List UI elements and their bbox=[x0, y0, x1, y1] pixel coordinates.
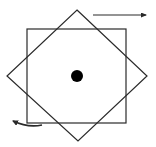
center-dot bbox=[71, 70, 83, 82]
rotating-squares-diagram bbox=[0, 0, 156, 147]
